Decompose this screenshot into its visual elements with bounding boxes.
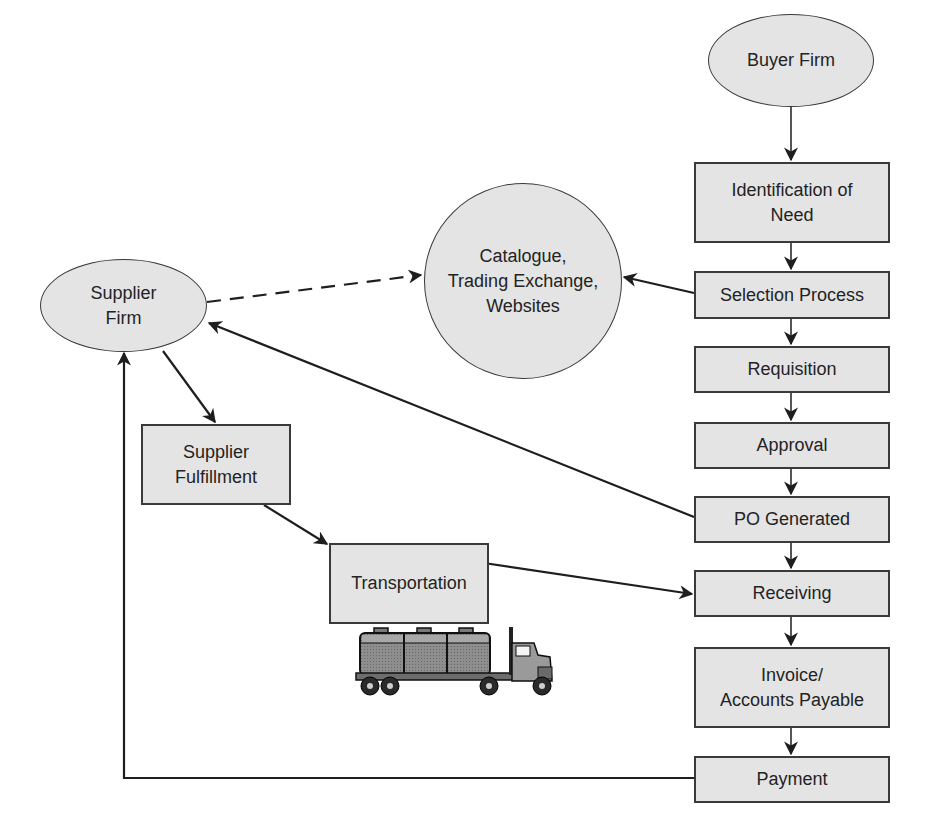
node-label: Approval xyxy=(756,433,827,458)
arrow-supplier-to-fulfillment xyxy=(163,351,215,422)
node-label: Requisition xyxy=(747,357,836,382)
procurement-flow-diagram: Buyer Firm Identification of Need Select… xyxy=(0,0,928,838)
node-label: Payment xyxy=(756,767,827,792)
node-payment: Payment xyxy=(694,756,890,803)
arrow-supplier-to-catalogue-dashed xyxy=(207,275,421,302)
node-approval: Approval xyxy=(694,422,890,469)
node-supplier-firm: Supplier Firm xyxy=(40,259,207,352)
node-catalogue-trading-exchange-websites: Catalogue, Trading Exchange, Websites xyxy=(424,183,622,379)
node-identification-of-need: Identification of Need xyxy=(694,162,890,243)
node-requisition: Requisition xyxy=(694,346,890,393)
node-selection-process: Selection Process xyxy=(694,271,890,319)
node-label: Selection Process xyxy=(720,283,864,308)
node-receiving: Receiving xyxy=(694,570,890,617)
node-label: Receiving xyxy=(752,581,831,606)
node-label: Supplier Firm xyxy=(90,281,156,331)
node-label: Invoice/ Accounts Payable xyxy=(720,663,864,713)
arrow-selection-to-catalogue xyxy=(624,277,694,293)
arrow-fulfillment-to-transportation xyxy=(264,505,327,544)
arrow-transportation-to-receiving xyxy=(484,563,692,594)
node-transportation: Transportation xyxy=(329,543,489,624)
tanker-truck-icon xyxy=(352,625,560,701)
node-label: Identification of Need xyxy=(731,178,852,228)
node-label: PO Generated xyxy=(734,507,850,532)
node-label: Supplier Fulfillment xyxy=(175,440,257,490)
node-label: Buyer Firm xyxy=(747,48,835,73)
node-po-generated: PO Generated xyxy=(694,496,890,543)
node-label: Catalogue, Trading Exchange, Websites xyxy=(448,244,598,319)
node-buyer-firm: Buyer Firm xyxy=(708,14,874,107)
node-label: Transportation xyxy=(351,571,466,596)
node-invoice-accounts-payable: Invoice/ Accounts Payable xyxy=(694,647,890,728)
node-supplier-fulfillment: Supplier Fulfillment xyxy=(141,424,291,505)
